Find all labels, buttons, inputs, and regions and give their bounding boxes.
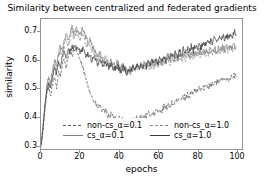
x-tick-mark (198, 150, 199, 153)
x-tick-mark (79, 150, 80, 153)
chart-legend: non-cs_α=0.1 non-cs_α=1.0 cs_α=0.1 cs_α=… (59, 118, 237, 143)
legend-swatch-dashed-icon (150, 122, 170, 129)
y-tick-mark (37, 88, 40, 89)
legend-item-non-cs-alpha-10: non-cs_α=1.0 (150, 121, 233, 130)
legend-label: non-cs_α=1.0 (174, 121, 229, 130)
y-tick-label: 0.7 (3, 27, 37, 35)
x-tick-label: 40 (104, 153, 134, 161)
y-tick-mark (37, 60, 40, 61)
legend-item-cs-alpha-01: cs_α=0.1 (63, 131, 146, 140)
legend-swatch-solid-icon (63, 132, 83, 139)
x-tick-mark (119, 150, 120, 153)
x-tick-label: 60 (143, 153, 173, 161)
legend-label: cs_α=0.1 (87, 131, 124, 140)
legend-swatch-dashed-icon (63, 122, 83, 129)
x-tick-label: 20 (64, 153, 94, 161)
x-tick-label: 0 (25, 153, 55, 161)
legend-item-cs-alpha-10: cs_α=1.0 (150, 131, 233, 140)
x-tick-mark (158, 150, 159, 153)
x-tick-label: 100 (222, 153, 252, 161)
y-axis-label: similarity (4, 47, 14, 107)
legend-item-non-cs-alpha-01: non-cs_α=0.1 (63, 121, 146, 130)
x-tick-mark (40, 150, 41, 153)
chart-title: Similarity between centralized and feder… (0, 2, 264, 14)
legend-label: cs_α=1.0 (174, 131, 211, 140)
x-tick-mark (237, 150, 238, 153)
y-tick-mark (37, 31, 40, 32)
y-tick-label: 0.3 (3, 142, 37, 150)
legend-swatch-solid-icon (150, 132, 170, 139)
y-tick-label: 0.4 (3, 113, 37, 121)
chart-figure: Similarity between centralized and feder… (0, 0, 264, 181)
x-tick-label: 80 (183, 153, 213, 161)
y-tick-mark (37, 146, 40, 147)
legend-label: non-cs_α=0.1 (87, 121, 142, 130)
y-tick-mark (37, 117, 40, 118)
x-axis-label: epochs (40, 164, 243, 174)
